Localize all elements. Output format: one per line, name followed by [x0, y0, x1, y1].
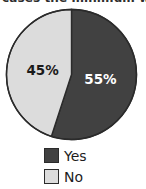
pie-graphic: 45% 55%	[5, 8, 138, 141]
pie-chart: 45% 55%	[0, 5, 146, 143]
legend-label-yes: Yes	[64, 149, 87, 163]
legend-swatch-yes-icon	[44, 148, 59, 163]
legend-swatch-no-icon	[44, 169, 59, 184]
chart-legend: Yes No	[0, 144, 146, 189]
pie-label-yes: 55%	[84, 71, 117, 87]
legend-label-no: No	[64, 170, 83, 184]
pie-svg: 45% 55%	[5, 8, 138, 141]
pie-label-no: 45%	[26, 62, 59, 78]
legend-item-no[interactable]: No	[44, 168, 83, 185]
legend-item-yes[interactable]: Yes	[44, 147, 87, 164]
